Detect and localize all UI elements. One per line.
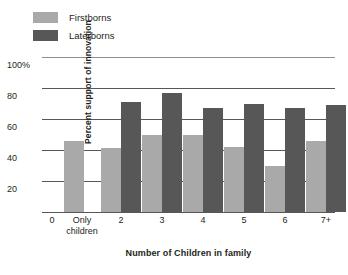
- bar-firstborns-4: [183, 135, 203, 213]
- bar-laterborns-3: [162, 93, 182, 212]
- x-tick-label-6: 6: [275, 215, 295, 226]
- bar-laterborns-4: [203, 108, 223, 212]
- bar-firstborns-2: [101, 148, 121, 212]
- y-axis-title: Percent support of innovation: [83, 7, 93, 157]
- legend-swatch-firstborns: [33, 12, 58, 23]
- x-tick-text-children: children: [54, 226, 110, 237]
- bar-firstborns-7plus: [306, 141, 326, 212]
- x-tick-label-4: 4: [193, 215, 213, 226]
- bar-firstborns-5: [224, 147, 244, 212]
- x-axis-title: Number of Children in family: [42, 248, 335, 258]
- plot-area: Percent support of innovation: [42, 57, 335, 212]
- y-tick-label-80: 80: [7, 91, 17, 101]
- bar-firstborns-only-children: [64, 141, 84, 212]
- y-tick-label-40: 40: [7, 153, 17, 163]
- bar-firstborns-3: [142, 135, 162, 213]
- y-tick-label-20: 20: [7, 184, 17, 194]
- x-tick-label-2: 2: [111, 215, 131, 226]
- x-tick-text-4: 4: [193, 215, 213, 226]
- bar-chart-figure: Firstborns Laterborns: [0, 0, 348, 275]
- bar-laterborns-5: [244, 104, 264, 213]
- bar-laterborns-6: [285, 108, 305, 212]
- x-tick-label-only-children: Only children: [54, 215, 110, 236]
- x-tick-text-7plus: 7+: [316, 215, 336, 226]
- x-tick-text-only: Only: [54, 215, 110, 226]
- x-tick-text-6: 6: [275, 215, 295, 226]
- bar-firstborns-6: [265, 166, 285, 213]
- x-tick-text-3: 3: [152, 215, 172, 226]
- legend-swatch-laterborns: [33, 30, 58, 41]
- x-tick-label-3: 3: [152, 215, 172, 226]
- y-tick-label-100: 100%: [7, 60, 30, 70]
- legend-item-laterborns: Laterborns: [33, 28, 193, 43]
- bar-laterborns-2: [121, 102, 141, 212]
- axis-baseline: [42, 212, 335, 213]
- x-tick-label-5: 5: [234, 215, 254, 226]
- legend-item-firstborns: Firstborns: [33, 10, 193, 25]
- x-tick-text-2: 2: [111, 215, 131, 226]
- y-tick-label-60: 60: [7, 122, 17, 132]
- x-tick-label-7plus: 7+: [316, 215, 336, 226]
- x-tick-text-5: 5: [234, 215, 254, 226]
- bar-laterborns-7plus: [326, 105, 346, 212]
- chart-legend: Firstborns Laterborns: [33, 10, 193, 46]
